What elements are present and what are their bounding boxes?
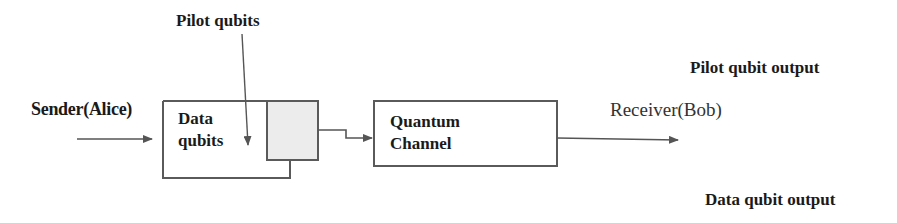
data-qubits-line2: qubits (178, 130, 223, 152)
quantum-channel-line2: Channel (390, 133, 460, 155)
pilot-qubit-output-label: Pilot qubit output (690, 59, 819, 76)
pilot-qubits-label: Pilot qubits (176, 12, 260, 29)
quantum-channel-label: Quantum Channel (390, 111, 460, 155)
data-to-channel-connector (318, 130, 372, 138)
receiver-output-arrow (557, 138, 678, 140)
sender-label: Sender(Alice) (31, 100, 132, 118)
data-qubits-line1: Data (178, 108, 223, 130)
data-qubits-label: Data qubits (178, 108, 223, 152)
pilot-qubit-block (267, 101, 318, 160)
data-qubit-output-label: Data qubit output (705, 191, 835, 208)
receiver-label: Receiver(Bob) (610, 100, 722, 119)
quantum-channel-line1: Quantum (390, 111, 460, 133)
pilot-input-arrow (242, 34, 248, 145)
